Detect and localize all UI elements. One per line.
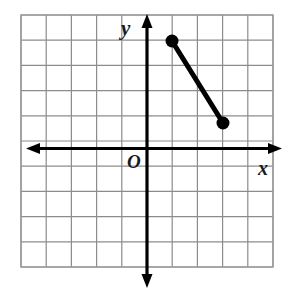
coordinate-plane-svg <box>0 0 291 302</box>
y-axis-label: y <box>121 18 130 39</box>
origin-label: O <box>127 152 141 171</box>
endpoint-upper-left <box>166 35 179 48</box>
coordinate-plane-figure: y x O <box>0 0 291 302</box>
endpoint-lower-right <box>217 117 230 130</box>
x-axis-label: x <box>258 158 268 178</box>
